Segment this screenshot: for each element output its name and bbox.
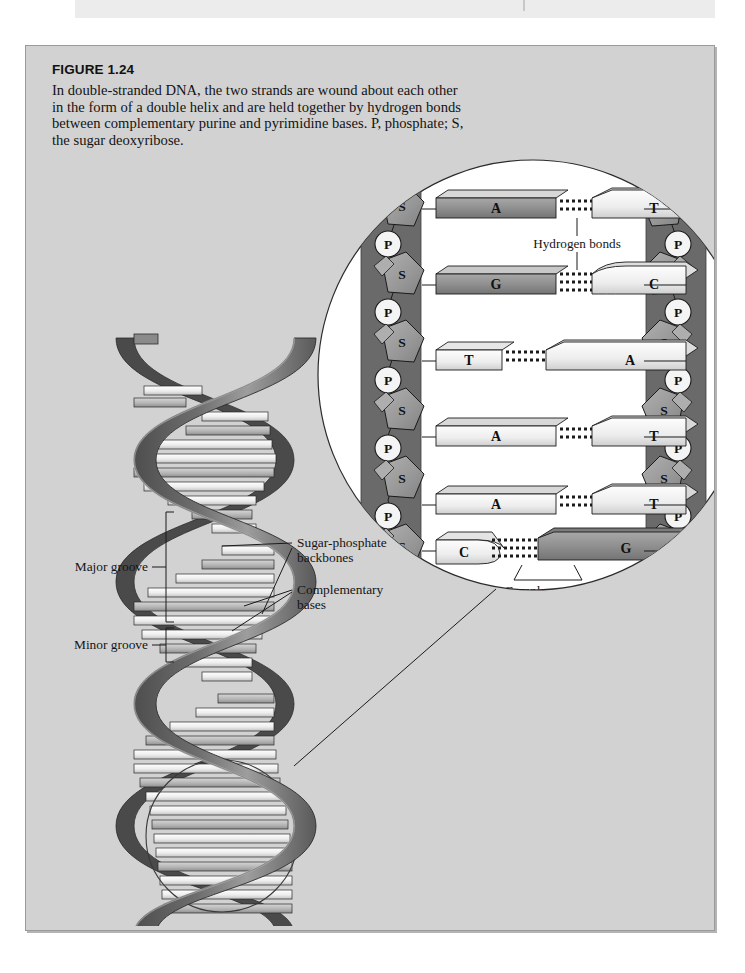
phosphate-right-3: P: [665, 367, 691, 393]
phosphate-left-3-label: P: [384, 373, 392, 388]
base-pair-4-left-letter: A: [491, 429, 502, 444]
phosphate-left-2: P: [375, 299, 401, 325]
base-pair-1-left-letter: A: [491, 201, 502, 216]
scan-artifact-tick: [523, 0, 525, 11]
sugar-phosphate-label-line2: backbones: [297, 550, 354, 565]
base-pair-3-right-letter: A: [625, 353, 636, 368]
phosphate-left-4: P: [375, 435, 401, 461]
page-root: FIGURE 1.24 In double-stranded DNA, the …: [0, 0, 745, 973]
base-pair-2-left-letter: G: [491, 277, 502, 292]
base-pair-6: C G: [422, 528, 698, 564]
complementary-bases-label-line2: bases: [297, 597, 326, 612]
figure-panel: FIGURE 1.24 In double-stranded DNA, the …: [25, 45, 715, 931]
magnification-leader-line: [294, 589, 496, 766]
phosphate-right-2: P: [665, 299, 691, 325]
phosphate-right-1-label: P: [674, 237, 682, 252]
base-pair-6-right-letter: G: [621, 541, 632, 556]
complementary-bases-label-line1: Complementary: [297, 582, 384, 597]
sugar-left-3-label: S: [398, 335, 406, 350]
base-pair-6-left-letter: C: [459, 545, 469, 560]
sugar-left-4-label: S: [398, 403, 406, 418]
scan-artifact-band: [75, 0, 715, 18]
phosphate-right-1: P: [665, 231, 691, 257]
base-pair-3: T A: [422, 340, 698, 370]
sugar-phosphate-label-line1: Sugar-phosphate: [297, 535, 387, 550]
phosphate-left-3: P: [375, 367, 401, 393]
sugar-left-6-label: S: [398, 539, 406, 554]
base-pair-5-left-letter: A: [491, 497, 502, 512]
inset-complementary-label-line1: Complementary: [505, 583, 590, 598]
sugar-left-1: S: [374, 184, 424, 226]
phosphate-left-4-label: P: [384, 441, 392, 456]
sugar-left-5-label: S: [398, 471, 406, 486]
dna-figure-artwork: Major groove Minor groove Sugar-phosphat…: [26, 46, 714, 930]
phosphate-left-5-label: P: [384, 509, 392, 524]
dna-double-helix: [116, 334, 316, 930]
minor-groove-label: Minor groove: [74, 637, 148, 652]
base-pair-3-left-letter: T: [464, 353, 474, 368]
sugar-left-2-label: S: [398, 267, 406, 282]
phosphate-left-1: P: [375, 231, 401, 257]
helix-top-cut: [134, 334, 158, 344]
hydrogen-bonds-label: Hydrogen bonds: [533, 236, 621, 251]
phosphate-left-2-label: P: [384, 305, 392, 320]
phosphate-right-3-label: P: [674, 373, 682, 388]
phosphate-right-2-label: P: [674, 305, 682, 320]
major-groove-label: Major groove: [75, 559, 148, 574]
inset-complementary-label-line2: bases: [533, 599, 562, 614]
phosphate-left-1-label: P: [384, 237, 392, 252]
